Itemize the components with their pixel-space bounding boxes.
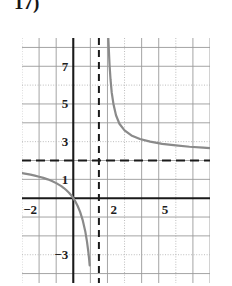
y-tick-label: 5	[62, 96, 69, 111]
graph-plot-area: 7531−3−225	[22, 38, 210, 283]
x-tick-label: 2	[110, 202, 117, 217]
function-curves	[22, 38, 210, 265]
coordinate-plane-svg: 7531−3−225	[22, 38, 210, 283]
x-tick-label: 5	[162, 202, 169, 217]
y-tick-label: 3	[62, 134, 69, 149]
problem-number: 17)	[14, 0, 39, 12]
y-tick-label: 1	[62, 172, 69, 187]
x-tick-label: −2	[23, 202, 37, 217]
y-tick-label: 7	[62, 59, 69, 74]
y-tick-label: −3	[54, 247, 68, 262]
